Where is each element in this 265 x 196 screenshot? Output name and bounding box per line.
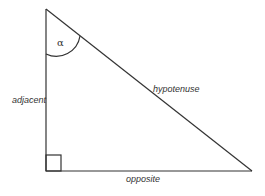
opposite-label: opposite (126, 174, 160, 184)
angle-label: α (57, 37, 64, 48)
right-angle-marker (46, 155, 61, 171)
hypotenuse-label: hypotenuse (153, 84, 200, 94)
right-triangle (46, 9, 252, 171)
triangle-diagram: α adjacent hypotenuse opposite (0, 0, 265, 196)
hypotenuse-side (46, 9, 252, 171)
adjacent-label: adjacent (12, 95, 47, 105)
